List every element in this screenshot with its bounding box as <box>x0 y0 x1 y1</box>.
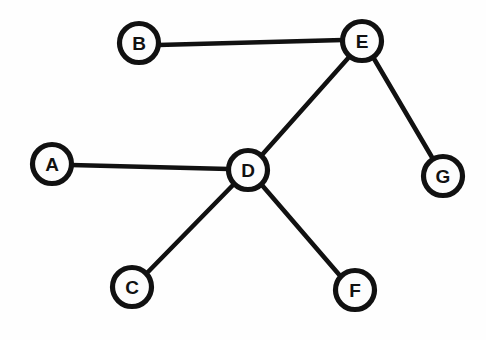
edge-D-F[interactable] <box>261 184 342 278</box>
edge-B-E[interactable] <box>158 40 343 45</box>
edge-E-G[interactable] <box>373 57 433 159</box>
edge-A-D[interactable] <box>71 165 229 169</box>
node-D-label: D <box>241 160 255 181</box>
node-C-label: C <box>125 277 139 298</box>
node-B-label: B <box>132 33 146 54</box>
node-A[interactable]: A <box>33 145 72 184</box>
graph-svg: A B C D E F <box>0 0 486 340</box>
node-B[interactable]: B <box>120 24 159 63</box>
edge-D-E[interactable] <box>261 56 350 156</box>
node-F[interactable]: F <box>336 271 375 310</box>
node-D[interactable]: D <box>229 151 268 190</box>
node-A-label: A <box>45 154 59 175</box>
node-G-label: G <box>436 166 451 187</box>
diagram-canvas: A B C D E F <box>0 0 486 340</box>
node-E[interactable]: E <box>343 22 382 61</box>
node-C[interactable]: C <box>113 268 152 307</box>
node-E-label: E <box>356 31 369 52</box>
edge-D-C[interactable] <box>145 183 235 275</box>
node-F-label: F <box>349 280 361 301</box>
node-G[interactable]: G <box>424 157 463 196</box>
